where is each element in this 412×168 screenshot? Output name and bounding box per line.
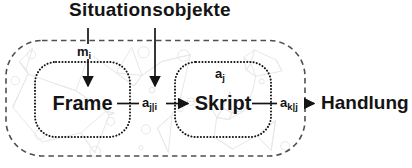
label-m-i-base: m — [77, 44, 89, 59]
label-m-i-sub: i — [89, 50, 92, 61]
label-a-j-given-i: aj|i — [140, 95, 159, 110]
label-a-k-given-j: ak|j — [278, 95, 300, 110]
node-handlung: Handlung — [321, 93, 409, 114]
label-a-j: aj — [213, 66, 227, 81]
diagram-title: Situationsobjekte — [0, 0, 300, 21]
label-a-k-given-j-sub: k|j — [287, 101, 298, 112]
label-a-j-sub: j — [222, 72, 225, 83]
diagram-canvas: Situationsobjekte mi Frame aj|i aj Skrip… — [0, 0, 412, 168]
label-m-i: mi — [75, 44, 93, 59]
node-skript: Skript — [175, 92, 271, 114]
node-frame: Frame — [35, 92, 130, 114]
label-a-j-given-i-sub: j|i — [149, 101, 157, 112]
diagram-graphics — [0, 0, 412, 168]
